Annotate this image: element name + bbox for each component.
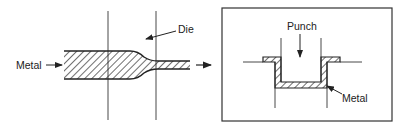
metal-workpiece [64, 51, 190, 79]
metal-label-right: Metal [342, 92, 368, 104]
die-label: Die [178, 23, 194, 35]
punch-label: Punch [287, 20, 317, 32]
left-panel: Metal Die [16, 11, 211, 120]
right-panel: Punch Metal [222, 8, 392, 121]
metal-arrow-right-icon [327, 86, 342, 94]
process-diagram: Metal Die Punch Metal [0, 0, 411, 132]
metal-label-left: Metal [16, 59, 42, 71]
cup-metal [263, 57, 340, 88]
die-arrow-icon [146, 31, 176, 39]
